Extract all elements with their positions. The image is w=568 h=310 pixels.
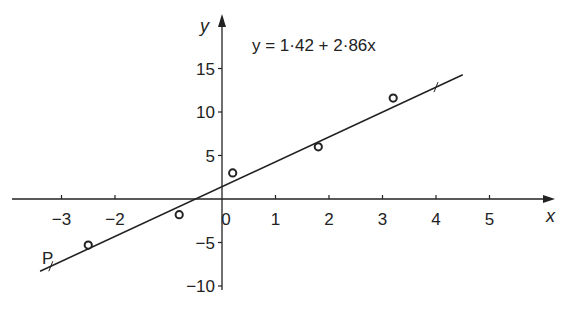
data-point — [390, 94, 397, 101]
x-tick-label: 3 — [378, 210, 387, 229]
point-label-p: P — [42, 249, 53, 268]
y-axis-label: y — [198, 16, 210, 36]
x-axis-label: x — [545, 206, 556, 226]
data-point — [176, 211, 183, 218]
regression-equation: y = 1·42 + 2·86x — [252, 36, 376, 55]
x-tick-label: −2 — [105, 210, 124, 229]
scatter-chart: xy−3−201234515105−5−10Py = 1·42 + 2·86x — [0, 0, 568, 310]
data-point — [85, 242, 92, 249]
y-axis-arrow-icon — [218, 14, 226, 27]
data-point — [315, 143, 322, 150]
x-tick-label: −3 — [52, 210, 71, 229]
x-tick-label: 4 — [431, 210, 440, 229]
data-point — [229, 169, 236, 176]
y-tick-label: 15 — [196, 60, 215, 79]
y-tick-label: 5 — [206, 147, 215, 166]
x-tick-label: 5 — [485, 210, 494, 229]
y-tick-label: 10 — [196, 103, 215, 122]
x-tick-label: 0 — [221, 210, 230, 229]
y-tick-label: −5 — [196, 234, 215, 253]
x-tick-label: 2 — [324, 210, 333, 229]
x-axis-arrow-icon — [543, 195, 555, 203]
x-tick-label: 1 — [271, 210, 280, 229]
regression-line — [40, 75, 463, 272]
y-tick-label: −10 — [186, 277, 215, 296]
